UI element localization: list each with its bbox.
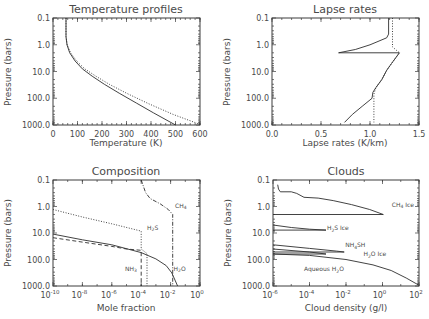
y-tick-label: 0.1 (256, 14, 269, 23)
y-tick-label: 1.0 (37, 203, 50, 212)
series-annotation: NH4SH (345, 241, 365, 250)
y-tick-label: 100.0 (246, 94, 269, 103)
plot-frame (272, 18, 419, 125)
y-tick-label: 100.0 (247, 256, 270, 265)
x-tick-label: 100 (190, 289, 204, 300)
y-tick-label: 1000.0 (22, 282, 50, 291)
y-axis-label: Pressure (bars) (223, 199, 233, 267)
panel-title: Composition (92, 165, 161, 178)
series-solid (66, 18, 176, 125)
plot-frame (53, 18, 200, 125)
panel-composition: Composition 0.11.010.0100.01000.010-1010… (3, 165, 204, 313)
series-nh3 (53, 238, 141, 286)
x-tick-label: 500 (168, 130, 183, 139)
series-h2s (53, 210, 147, 287)
plot-area: 0.11.010.0100.01000.010-610-410-2100102C… (242, 176, 423, 300)
series-annotation: H2S Ice (327, 224, 349, 233)
series-h2s-ice (273, 225, 326, 230)
panel-lapse-rates: Lapse rates 0.11.010.0100.01000.00.00.51… (222, 3, 425, 148)
series-annotation: Aqueous H2O (304, 265, 344, 274)
series-nh4sh (273, 245, 344, 252)
x-tick-label: 10-2 (335, 289, 351, 300)
y-tick-label: 100.0 (27, 94, 50, 103)
series-h2o-ice (273, 249, 326, 254)
x-axis-label: Cloud density (g/l) (305, 303, 388, 313)
series-annotation: CH4 Ice (392, 201, 415, 210)
series-aqueous-h2o (273, 254, 418, 285)
series-annotation: H2O (174, 265, 186, 274)
x-tick-label: 600 (192, 130, 207, 139)
series-annotation: NH3 (125, 265, 137, 274)
series-ch4-ice (273, 185, 383, 215)
y-axis-label: Pressure (bars) (222, 38, 232, 106)
y-tick-label: 1000.0 (242, 282, 270, 291)
x-tick-label: 0 (50, 130, 55, 139)
series-annotation: H2O Ice (363, 250, 386, 259)
y-tick-label: 0.1 (37, 176, 50, 185)
y-tick-label: 1.0 (37, 41, 50, 50)
y-tick-label: 0.1 (257, 176, 270, 185)
y-tick-label: 1000.0 (241, 121, 269, 130)
figure: Temperature profiles 0.11.010.0100.01000… (0, 0, 429, 319)
y-tick-label: 10.0 (251, 68, 269, 77)
y-tick-label: 0.1 (37, 14, 50, 23)
panel-title: Lapse rates (313, 3, 377, 16)
series-h2o (53, 234, 178, 286)
y-tick-label: 10.0 (32, 229, 50, 238)
x-tick-label: 10-8 (72, 289, 88, 300)
x-axis-label: Lapse rates (K/km) (302, 138, 387, 148)
x-tick-label: 10-6 (262, 289, 278, 300)
plot-frame (273, 180, 419, 286)
x-tick-label: 10-2 (160, 289, 176, 300)
y-axis-label: Pressure (bars) (3, 199, 13, 267)
y-tick-label: 10.0 (252, 229, 270, 238)
plot-area: 0.11.010.0100.01000.00.00.51.01.5 (241, 14, 425, 139)
series-annotation: CH4 (175, 202, 187, 211)
panel-title: Temperature profiles (68, 3, 183, 16)
x-tick-label: 102 (409, 289, 423, 300)
x-tick-label: 10-4 (299, 289, 315, 300)
y-axis-label: Pressure (bars) (3, 38, 13, 106)
x-tick-label: 100 (70, 130, 85, 139)
y-tick-label: 1.0 (257, 203, 270, 212)
x-tick-label: 10-4 (130, 289, 146, 300)
series-solid (339, 18, 400, 122)
series-ch4 (141, 180, 173, 286)
y-tick-label: 100.0 (27, 256, 50, 265)
x-tick-label: 1.5 (413, 130, 426, 139)
plot-area: 0.11.010.0100.01000.00100200300400500600 (22, 14, 208, 139)
y-tick-label: 1.0 (256, 41, 269, 50)
x-tick-label: 100 (373, 289, 387, 300)
x-axis-label: Temperature (K) (89, 138, 163, 148)
panel-temperature: Temperature profiles 0.11.010.0100.01000… (3, 3, 208, 148)
panel-clouds: Clouds 0.11.010.0100.01000.010-610-410-2… (223, 165, 423, 313)
panel-title: Clouds (327, 165, 364, 178)
x-tick-label: 0.0 (266, 130, 279, 139)
y-tick-label: 10.0 (32, 68, 50, 77)
x-tick-label: 10-6 (101, 289, 117, 300)
plot-area: 0.11.010.0100.01000.010-1010-810-610-410… (22, 176, 204, 300)
y-tick-label: 1000.0 (22, 121, 50, 130)
x-axis-label: Mole fraction (97, 303, 156, 313)
series-annotation: H2S (147, 224, 158, 233)
x-tick-label: 10-10 (40, 289, 60, 300)
